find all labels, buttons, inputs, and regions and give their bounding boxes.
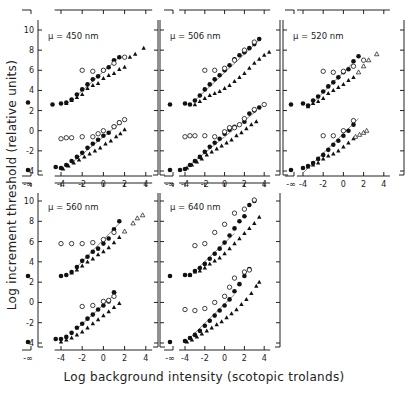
y-tick-label: 6 [29, 66, 34, 75]
x-tick-label: 0 [222, 354, 227, 363]
x-tick-label: 4 [381, 180, 386, 189]
panel-560nm: -∞-4-2024-4-20246810μ = 560 nm [22, 183, 158, 363]
x-tick-label: 0 [341, 180, 346, 189]
x-tick-label: -2 [201, 354, 209, 363]
x-tick-label: -2 [319, 180, 327, 189]
panel-title: μ = 506 nm [170, 31, 221, 41]
x-tick-label: 0 [101, 354, 106, 363]
x-tick-label: 2 [242, 354, 247, 363]
panel-title: μ = 450 nm [48, 31, 99, 41]
panel-520nm: -∞-4-2024μ = 520 nm [283, 10, 404, 189]
y-tick-label: 0 [29, 127, 34, 136]
x-tick-label: -∞ [286, 180, 296, 189]
x-tick-label: 4 [262, 354, 267, 363]
x-tick-label: -∞ [165, 354, 175, 363]
panel-640nm: -∞-4-2024μ = 640 nm [160, 183, 280, 363]
plot-grid: -∞-4-2024-4-20246810μ = 450 nm-∞-4-2024μ… [0, 0, 408, 393]
panel-506nm: -∞-4-2024μ = 506 nm [160, 10, 280, 189]
x-tick-label: 2 [361, 180, 366, 189]
panel-450nm: -∞-4-2024-4-20246810μ = 450 nm [22, 10, 158, 189]
y-axis-label: Log increment threshold (relative units) [5, 55, 19, 315]
panel-title: μ = 640 nm [170, 202, 221, 212]
y-tick-label: -2 [26, 319, 34, 328]
x-tick-label: -2 [78, 354, 86, 363]
x-axis-label: Log background intensity (scotopic trola… [0, 370, 408, 384]
x-tick-label: -4 [57, 354, 65, 363]
x-tick-label: -∞ [23, 354, 33, 363]
y-tick-label: 4 [29, 86, 34, 95]
y-tick-label: 8 [29, 217, 34, 226]
y-tick-label: 2 [29, 278, 34, 287]
y-tick-label: 6 [29, 238, 34, 247]
panel-title: μ = 520 nm [293, 31, 344, 41]
panel-title: μ = 560 nm [48, 202, 99, 212]
x-tick-label: 2 [122, 354, 127, 363]
y-tick-label: 8 [29, 46, 34, 55]
y-tick-label: 4 [29, 258, 34, 267]
y-tick-label: 10 [24, 197, 34, 206]
y-tick-label: -2 [26, 147, 34, 156]
figure: -∞-4-2024-4-20246810μ = 450 nm-∞-4-2024μ… [0, 0, 408, 393]
y-tick-label: 0 [29, 298, 34, 307]
y-tick-label: 10 [24, 26, 34, 35]
x-tick-label: 4 [143, 354, 148, 363]
y-tick-label: 2 [29, 107, 34, 116]
x-tick-label: -4 [299, 180, 307, 189]
x-tick-label: -4 [181, 354, 189, 363]
